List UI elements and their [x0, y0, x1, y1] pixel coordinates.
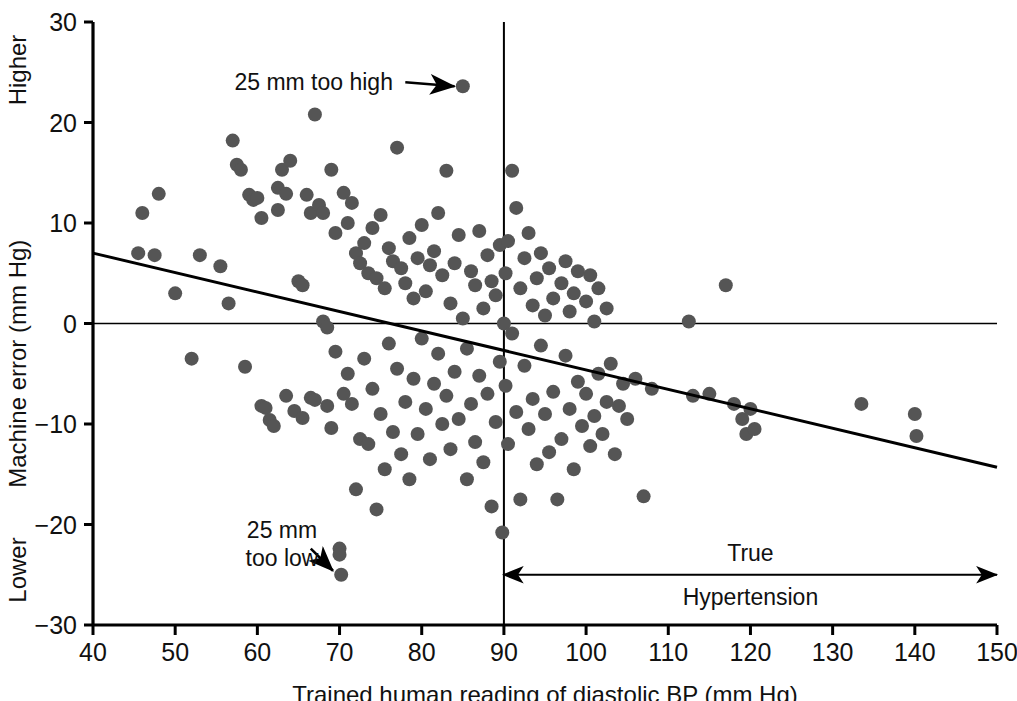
data-point	[168, 286, 182, 300]
data-point	[439, 389, 453, 403]
data-point	[415, 218, 429, 232]
data-point	[402, 472, 416, 486]
data-point	[407, 291, 421, 305]
data-point	[324, 163, 338, 177]
data-point	[328, 226, 342, 240]
data-point	[419, 402, 433, 416]
data-point	[579, 387, 593, 401]
data-point	[534, 339, 548, 353]
data-point	[357, 352, 371, 366]
data-point	[402, 231, 416, 245]
data-point	[485, 274, 499, 288]
x-tick-label: 130	[812, 638, 854, 666]
data-point	[283, 154, 297, 168]
data-point	[341, 216, 355, 230]
data-point	[452, 412, 466, 426]
data-point	[495, 526, 509, 540]
data-point	[472, 224, 486, 238]
data-point	[608, 447, 622, 461]
data-point	[443, 442, 457, 456]
too-low-annotation-text-line-2: too low	[246, 545, 319, 571]
data-point	[476, 301, 490, 315]
data-point	[398, 276, 412, 290]
data-point	[501, 437, 515, 451]
data-point	[411, 427, 425, 441]
data-point	[271, 203, 285, 217]
x-axis-title: Trained human reading of diastolic BP (m…	[292, 681, 798, 701]
data-point	[501, 234, 515, 248]
y-axis-top-label: Higher	[4, 35, 31, 106]
too-high-annotation-arrow	[405, 82, 454, 86]
data-point	[435, 417, 449, 431]
data-point	[476, 455, 490, 469]
data-point	[534, 246, 548, 260]
data-point	[909, 429, 923, 443]
data-point	[345, 196, 359, 210]
data-point	[254, 211, 268, 225]
data-point	[530, 457, 544, 471]
data-point	[131, 246, 145, 260]
data-point	[333, 548, 347, 562]
data-point	[464, 397, 478, 411]
data-point	[365, 382, 379, 396]
data-point	[448, 365, 462, 379]
x-tick-label: 40	[79, 638, 107, 666]
data-point	[596, 427, 610, 441]
scatter-plot: −30−20−100102030405060708090100110120130…	[0, 0, 1017, 701]
data-point	[499, 266, 513, 280]
x-tick-label: 90	[490, 638, 518, 666]
x-tick-label: 100	[565, 638, 607, 666]
data-point	[460, 472, 474, 486]
data-point	[499, 379, 513, 393]
data-point	[600, 395, 614, 409]
y-axis-title: Machine error (mm Hg)	[4, 240, 31, 488]
data-point	[546, 385, 560, 399]
data-point	[637, 489, 651, 503]
data-point	[542, 261, 556, 275]
y-tick-label: −30	[35, 611, 77, 639]
data-point	[423, 452, 437, 466]
data-point	[538, 407, 552, 421]
regression-line	[93, 253, 997, 467]
x-tick-label: 50	[161, 638, 189, 666]
data-point	[382, 241, 396, 255]
data-point	[308, 393, 322, 407]
data-point	[374, 208, 388, 222]
x-tick-label: 140	[894, 638, 936, 666]
data-point	[279, 187, 293, 201]
y-tick-label: 20	[49, 109, 77, 137]
data-point	[213, 259, 227, 273]
data-points-group	[131, 79, 923, 581]
y-axis-bottom-label: Lower	[4, 537, 31, 602]
data-point	[587, 409, 601, 423]
data-point	[407, 372, 421, 386]
data-point	[419, 284, 433, 298]
data-point	[320, 321, 334, 335]
data-point	[365, 221, 379, 235]
data-point	[435, 268, 449, 282]
data-point	[485, 499, 499, 513]
data-point	[517, 359, 531, 373]
data-point	[554, 276, 568, 290]
data-point	[748, 422, 762, 436]
data-point	[390, 141, 404, 155]
data-point	[480, 248, 494, 262]
y-tick-label: 30	[49, 8, 77, 36]
data-point	[345, 397, 359, 411]
data-point	[522, 422, 536, 436]
data-point	[250, 191, 264, 205]
data-point	[456, 311, 470, 325]
data-point	[386, 425, 400, 439]
data-point	[300, 188, 314, 202]
data-point	[505, 327, 519, 341]
data-point	[517, 251, 531, 265]
data-point	[554, 432, 568, 446]
data-point	[509, 405, 523, 419]
data-point	[234, 163, 248, 177]
data-point	[328, 345, 342, 359]
data-point	[452, 228, 466, 242]
data-point	[382, 337, 396, 351]
data-point	[513, 492, 527, 506]
data-point	[468, 278, 482, 292]
data-point	[378, 462, 392, 476]
